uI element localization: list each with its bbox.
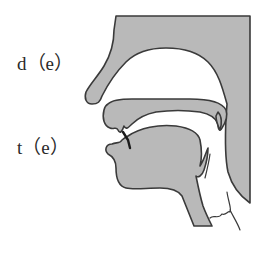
trachea-line xyxy=(230,210,240,230)
uvula xyxy=(216,112,221,130)
larynx-line xyxy=(210,192,231,218)
vocal-tract-diagram xyxy=(0,0,271,253)
tongue-lower-jaw xyxy=(106,125,212,226)
